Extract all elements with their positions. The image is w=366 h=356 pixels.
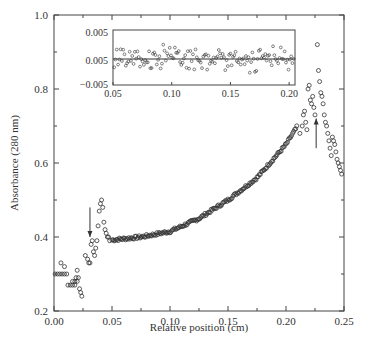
y-tick-label: 0.6 bbox=[34, 157, 48, 169]
data-point bbox=[321, 102, 325, 106]
inset-y-tick-label: 0.005 bbox=[86, 27, 109, 38]
data-point bbox=[327, 139, 331, 143]
data-point bbox=[328, 146, 332, 150]
data-point bbox=[90, 239, 94, 243]
data-point bbox=[318, 80, 322, 84]
data-point bbox=[312, 106, 316, 110]
data-point bbox=[300, 124, 304, 128]
data-point bbox=[334, 150, 338, 154]
data-point bbox=[75, 268, 79, 272]
data-point bbox=[340, 172, 344, 176]
data-point bbox=[94, 246, 98, 250]
y-tick-label: 1.0 bbox=[34, 9, 48, 21]
y-tick-label: 0.8 bbox=[34, 83, 48, 95]
x-tick-label: 0.20 bbox=[276, 315, 296, 327]
data-point bbox=[93, 254, 97, 258]
data-point bbox=[101, 205, 105, 209]
arrow-head-icon bbox=[314, 119, 319, 125]
x-axis-label: Relative position (cm) bbox=[150, 321, 249, 334]
data-point bbox=[316, 69, 320, 73]
data-point bbox=[298, 131, 302, 135]
data-point bbox=[322, 113, 326, 117]
data-point bbox=[83, 254, 87, 258]
y-axis-label: Absorbance (280 nm) bbox=[8, 115, 21, 211]
x-tick-label: 0.05 bbox=[102, 315, 122, 327]
data-point bbox=[307, 83, 311, 87]
data-point bbox=[320, 94, 324, 98]
data-point bbox=[59, 261, 63, 265]
data-point bbox=[315, 43, 319, 47]
inset-x-tick-label: 0.15 bbox=[222, 88, 240, 99]
data-point bbox=[310, 102, 314, 106]
data-point bbox=[100, 198, 104, 202]
y-tick-label: 0.2 bbox=[34, 305, 48, 317]
data-point bbox=[326, 131, 330, 135]
inset-x-tick-label: 0.10 bbox=[163, 88, 181, 99]
data-point bbox=[102, 220, 106, 224]
arrow-head-icon bbox=[87, 231, 92, 237]
inset-x-tick-label: 0.20 bbox=[280, 88, 298, 99]
data-point bbox=[333, 143, 337, 147]
data-point bbox=[325, 124, 329, 128]
y-tick-label: 0.4 bbox=[34, 231, 48, 243]
data-point bbox=[80, 294, 84, 298]
data-point bbox=[313, 113, 317, 117]
data-point bbox=[96, 224, 100, 228]
data-point bbox=[311, 94, 315, 98]
inset-y-tick-label: 0.005 bbox=[86, 55, 109, 66]
inset-y-tick-label: −0.005 bbox=[80, 79, 108, 90]
data-point bbox=[95, 239, 99, 243]
data-point bbox=[62, 265, 66, 269]
data-point bbox=[305, 128, 309, 132]
absorbance-chart: 0.000.050.100.150.200.250.20.40.60.81.0 … bbox=[0, 0, 366, 356]
data-point bbox=[97, 209, 101, 213]
data-point bbox=[303, 109, 307, 113]
data-point bbox=[304, 120, 308, 124]
inset-plot: 0.050.100.150.200.0050.005−0.005 bbox=[80, 27, 298, 99]
x-tick-label: 0.25 bbox=[334, 315, 354, 327]
data-point bbox=[329, 154, 333, 158]
